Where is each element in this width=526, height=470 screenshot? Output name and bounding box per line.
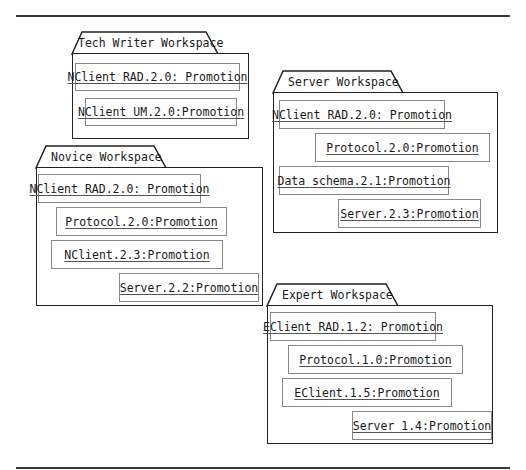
object-box[interactable]: Protocol.2.0:Promotion [315, 133, 490, 162]
object-label: NClient UM.2.0:Promotion [78, 105, 244, 119]
top-rule [16, 15, 510, 17]
package-name: Tech Writer Workspace [78, 36, 223, 50]
object-label: NClient RAD.2.0: Promotion [272, 108, 452, 122]
object-box[interactable]: Server.2.3:Promotion [338, 199, 481, 228]
object-box[interactable]: Server 1.4:Promotion [352, 411, 492, 440]
bottom-rule [16, 467, 510, 469]
object-box[interactable]: Protocol.2.0:Promotion [56, 207, 227, 236]
object-label: Server.2.3:Promotion [340, 207, 478, 221]
object-label: Protocol.2.0:Promotion [326, 141, 478, 155]
object-box[interactable]: NClient RAD.2.0: Promotion [38, 174, 201, 203]
object-label: Protocol.1.0:Promotion [299, 353, 451, 367]
object-box[interactable]: NClient UM.2.0:Promotion [85, 98, 237, 126]
object-label: Server.2.2:Promotion [120, 281, 258, 295]
package-tab: Tech Writer Workspace [72, 32, 218, 54]
object-box[interactable]: NClient.2.3:Promotion [51, 240, 223, 269]
package-name: Server Workspace [288, 75, 399, 89]
object-box[interactable]: Server.2.2:Promotion [119, 273, 259, 302]
object-label: NClient RAD.2.0: Promotion [68, 70, 248, 84]
object-box[interactable]: Data schema.2.1:Promotion [279, 166, 449, 195]
package-tab: Novice Workspace [36, 146, 166, 168]
object-box[interactable]: EClient.1.5:Promotion [282, 378, 452, 407]
object-label: EClient RAD.1.2: Promotion [263, 320, 443, 334]
object-label: NClient.2.3:Promotion [64, 248, 209, 262]
package-tab: Server Workspace [273, 71, 403, 93]
object-box[interactable]: Protocol.1.0:Promotion [288, 345, 463, 374]
package-tab: Expert Workspace [267, 284, 398, 306]
object-label: Protocol.2.0:Promotion [65, 215, 217, 229]
package-name: Novice Workspace [51, 150, 162, 164]
object-label: EClient.1.5:Promotion [294, 386, 439, 400]
object-box[interactable]: NClient RAD.2.0: Promotion [75, 63, 240, 91]
package-name: Expert Workspace [282, 288, 393, 302]
object-label: NClient RAD.2.0: Promotion [30, 182, 210, 196]
object-label: Data schema.2.1:Promotion [277, 174, 450, 188]
object-label: Server 1.4:Promotion [353, 419, 491, 433]
object-box[interactable]: NClient RAD.2.0: Promotion [279, 100, 445, 129]
object-box[interactable]: EClient RAD.1.2: Promotion [270, 312, 436, 341]
